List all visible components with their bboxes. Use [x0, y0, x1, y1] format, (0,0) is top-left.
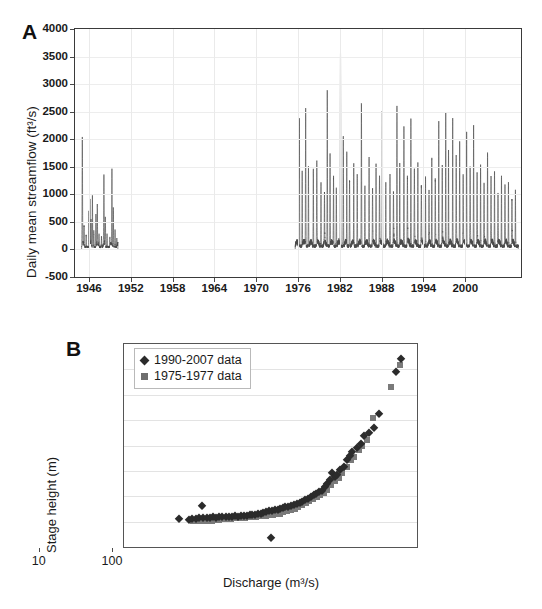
panel-a-hydrograph: A Daily mean streamflow (ft³/s) -5000500… [0, 0, 542, 305]
panel-a-y-tick: 2000 [24, 132, 68, 144]
panel-a-gridline-v [298, 29, 299, 277]
data-point-1975-1977 [397, 362, 403, 368]
panel-a-y-tickmark [70, 112, 74, 113]
panel-b-gridline-h [124, 446, 417, 447]
panel-b-rating-curve: B Stage height (m) Discharge (m³/s) 1990… [0, 305, 542, 609]
panel-a-gridline-v [382, 29, 383, 277]
panel-a-y-tickmark [70, 277, 74, 278]
panel-a-gridline-v [256, 29, 257, 277]
diamond-marker-icon [140, 355, 150, 365]
panel-a-gridline-v [131, 29, 132, 277]
legend-item-1990-2007: 1990-2007 data [140, 352, 242, 368]
panel-b-gridline-h [124, 522, 417, 523]
panel-a-x-tick: 1958 [150, 282, 196, 294]
figure-container: A Daily mean streamflow (ft³/s) -5000500… [0, 0, 542, 609]
data-point-1990-2007 [266, 533, 275, 542]
panel-a-y-tick: 3000 [24, 77, 68, 89]
data-point-1975-1977 [370, 415, 376, 421]
panel-a-gridline-v [173, 29, 174, 277]
panel-a-y-tick: 0 [24, 242, 68, 254]
panel-a-y-tick: 500 [24, 215, 68, 227]
legend-label-1975-1977: 1975-1977 data [154, 369, 242, 383]
panel-a-x-tick: 1982 [317, 282, 363, 294]
panel-b-y-axis-title: Stage height (m) [44, 457, 59, 553]
panel-b-x-axis-title: Discharge (m³/s) [0, 575, 542, 590]
panel-a-gridline-v [340, 29, 341, 277]
panel-b-x-tick: 100 [82, 554, 142, 568]
panel-a-y-tick: 4000 [24, 22, 68, 34]
panel-a-x-tickmark [382, 278, 383, 282]
legend-item-1975-1977: 1975-1977 data [140, 368, 242, 384]
panel-a-y-tickmark [70, 57, 74, 58]
panel-a-x-tick: 1952 [108, 282, 154, 294]
panel-a-x-tick: 1964 [191, 282, 237, 294]
panel-b-legend: 1990-2007 data 1975-1977 data [134, 348, 251, 389]
panel-b-gridline-h [124, 471, 417, 472]
panel-a-x-tick: 1994 [400, 282, 446, 294]
panel-a-gridline-v [423, 29, 424, 277]
panel-a-x-tickmark [131, 278, 132, 282]
panel-a-x-tickmark [340, 278, 341, 282]
panel-a-y-tickmark [70, 249, 74, 250]
panel-a-y-tickmark [70, 167, 74, 168]
panel-a-gridline-v [89, 29, 90, 277]
panel-a-x-tick: 1946 [66, 282, 112, 294]
panel-a-y-tickmark [70, 29, 74, 30]
panel-a-x-tickmark [256, 278, 257, 282]
panel-b-letter: B [66, 337, 81, 361]
square-marker-icon [141, 373, 148, 380]
panel-a-gridline-v [214, 29, 215, 277]
panel-a-y-tickmark [70, 84, 74, 85]
panel-a-y-tickmark [70, 194, 74, 195]
panel-b-x-tick: 10 [9, 554, 69, 568]
hydrograph-early-record [82, 137, 118, 249]
panel-a-x-tickmark [423, 278, 424, 282]
panel-b-gridline-h [124, 496, 417, 497]
panel-a-y-tickmark [70, 139, 74, 140]
data-point-1990-2007 [197, 502, 206, 511]
panel-a-x-tick: 2000 [442, 282, 488, 294]
data-point-1975-1977 [388, 384, 394, 390]
panel-a-gridline-v [465, 29, 466, 277]
panel-a-x-tick: 1988 [359, 282, 405, 294]
legend-label-1990-2007: 1990-2007 data [154, 353, 242, 367]
panel-a-x-tickmark [298, 278, 299, 282]
panel-a-y-tickmark [70, 222, 74, 223]
panel-a-y-tick: -500 [24, 270, 68, 282]
panel-a-x-tick: 1970 [233, 282, 279, 294]
panel-a-x-tickmark [465, 278, 466, 282]
panel-a-x-tickmark [89, 278, 90, 282]
panel-a-y-tick: 1500 [24, 160, 68, 172]
panel-a-plot-area [74, 28, 522, 278]
hydrograph-modern-record [295, 52, 518, 249]
panel-a-y-tick: 2500 [24, 105, 68, 117]
panel-a-x-tickmark [214, 278, 215, 282]
panel-b-gridline-h [124, 395, 417, 396]
panel-a-y-tick: 3500 [24, 50, 68, 62]
panel-a-x-tick: 1976 [275, 282, 321, 294]
panel-a-y-tick: 1000 [24, 187, 68, 199]
panel-b-x-tickmark [112, 548, 113, 552]
panel-a-x-tickmark [173, 278, 174, 282]
panel-b-plot-area: 1990-2007 data 1975-1977 data [123, 343, 418, 548]
panel-b-x-tickmark [39, 548, 40, 552]
